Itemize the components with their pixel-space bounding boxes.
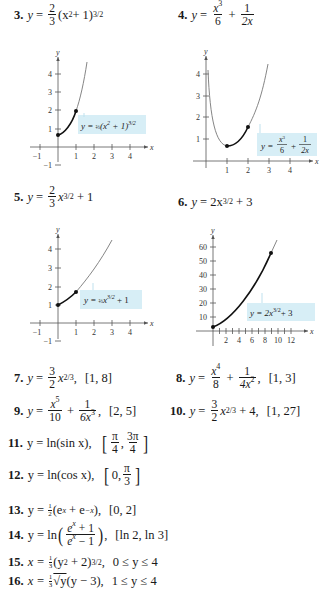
svg-text:60: 60 (199, 243, 207, 252)
svg-text:4: 4 (48, 70, 52, 79)
svg-text:8: 8 (263, 336, 267, 345)
svg-text:x: x (309, 327, 314, 336)
fraction: 3π4 (126, 430, 140, 456)
svg-text:−1: −1 (33, 328, 42, 337)
svg-text:1: 1 (48, 125, 52, 134)
interval: [2, 5] (109, 405, 136, 418)
svg-text:y = ⅔x3/2 + 1: y = ⅔x3/2 + 1 (83, 294, 129, 305)
interval: [0, 2] (109, 504, 136, 517)
fraction: 12 (48, 503, 52, 518)
svg-text:10: 10 (274, 336, 282, 345)
svg-text:3: 3 (196, 92, 200, 101)
problem-number: 9. (14, 405, 23, 418)
svg-text:12: 12 (287, 336, 295, 345)
svg-text:3: 3 (48, 264, 52, 273)
svg-text:2: 2 (48, 106, 52, 115)
svg-text:y: y (203, 47, 208, 56)
svg-text:x: x (314, 157, 319, 166)
svg-text:2: 2 (224, 336, 228, 345)
problem-number: 15. (8, 556, 24, 569)
svg-text:20: 20 (199, 299, 207, 308)
fraction: 32 (211, 398, 219, 424)
svg-text:4: 4 (48, 245, 52, 254)
graph-problem-4: x y 1234 1234 y = x3 6 + 1 2x (193, 47, 319, 175)
svg-text:2x: 2x (301, 146, 309, 155)
svg-text:3: 3 (267, 166, 271, 175)
condition: 1 ≤ y ≤ 4 (112, 575, 157, 588)
svg-text:2: 2 (92, 152, 96, 161)
svg-text:1: 1 (48, 301, 52, 310)
problem-number: 13. (8, 504, 24, 517)
svg-text:2: 2 (246, 166, 250, 175)
svg-text:2: 2 (196, 113, 200, 122)
square-root: √y (53, 575, 66, 588)
problem-number: 11. (8, 437, 23, 450)
svg-text:4: 4 (288, 166, 292, 175)
interval: [1, 27] (267, 405, 300, 418)
svg-text:1: 1 (74, 152, 78, 161)
fraction: x48 (210, 365, 221, 391)
svg-text:y = 2x3/2+ 3: y = 2x3/2+ 3 (249, 307, 293, 318)
svg-text:4: 4 (196, 70, 200, 79)
svg-text:y =: y = (260, 141, 273, 151)
graph-problem-3: x y −112 34 1234 −1 y = ⅔(x2 + 1)3/2 (30, 48, 154, 170)
problem-15: 15. x = 13 (y2 + 2)3/2, 0 ≤ y ≤ 4 (8, 555, 158, 570)
svg-text:1: 1 (196, 135, 200, 144)
svg-text:x: x (149, 319, 154, 328)
problem-11: 11. y = ln(sin x), [ π4, 3π4 ] (8, 430, 151, 456)
problem-10: 10. y = 32 x2/3 + 4, [1, 27] (170, 398, 300, 424)
svg-text:10: 10 (199, 313, 207, 322)
fraction: 13 (49, 555, 53, 570)
fraction: 23 (48, 184, 56, 210)
svg-text:x: x (149, 143, 154, 152)
svg-text:−1: −1 (43, 337, 52, 346)
problem-number: 8. (176, 372, 185, 385)
problem-number: 6. (178, 196, 187, 209)
problem-6: 6. y = 2x3/2 + 3 (178, 196, 253, 209)
problem-number: 7. (14, 372, 23, 385)
problem-14: 14. y = ln ( ex + 1 ex − 1 ), [ln 2, ln … (8, 522, 168, 548)
svg-text:6: 6 (280, 146, 284, 155)
svg-text:4: 4 (128, 152, 132, 161)
problem-number: 10. (170, 405, 186, 418)
svg-text:30: 30 (199, 285, 207, 294)
svg-text:6: 6 (250, 336, 254, 345)
problem-7: 7. y = 32 x2/3, [1, 8] (14, 365, 112, 391)
fraction: x510 (48, 398, 62, 424)
fraction: ex + 1 ex − 1 (66, 522, 95, 548)
svg-text:−1: −1 (33, 152, 42, 161)
fraction: 14x2 (239, 365, 256, 391)
svg-text:3: 3 (110, 328, 114, 337)
svg-text:y: y (55, 225, 60, 234)
fraction: π3 (123, 462, 131, 488)
svg-text:40: 40 (199, 271, 207, 280)
problem-13: 13. y = 12 (ex + e−x ), [0, 2] (8, 503, 136, 518)
svg-text:50: 50 (199, 257, 207, 266)
graph-problem-6: x y 246 81012 102030 405060 y = 2x3/2+ 3 (196, 226, 315, 346)
svg-text:4: 4 (237, 336, 241, 345)
svg-text:1: 1 (225, 166, 229, 175)
svg-text:+: + (291, 141, 296, 151)
svg-text:−1: −1 (43, 161, 52, 170)
svg-text:4: 4 (128, 328, 132, 337)
svg-text:2: 2 (48, 283, 52, 292)
condition: 0 ≤ y ≤ 4 (113, 556, 158, 569)
svg-text:3: 3 (48, 88, 52, 97)
problem-9: 9. y = x510 + 16x3, [2, 5] (14, 398, 136, 424)
problem-number: 16. (8, 575, 24, 588)
svg-text:y: y (210, 226, 215, 235)
svg-text:1: 1 (303, 135, 307, 144)
fraction: 16x3 (79, 398, 96, 424)
problem-number: 5. (14, 191, 23, 204)
graph-problem-5: x y −112 34 1234 −1 y = ⅔x3/2 + 1 (30, 225, 154, 346)
svg-text:y: y (55, 48, 60, 57)
interval: [1, 8] (85, 372, 112, 385)
problem-number: 12. (8, 469, 24, 482)
fraction: 13 (49, 574, 53, 589)
svg-text:1: 1 (74, 328, 78, 337)
problem-5: 5. y = 23 x3/2 + 1 (14, 184, 93, 210)
svg-text:2: 2 (92, 328, 96, 337)
problem-8: 8. y = x48 + 14x2, [1, 3] (176, 365, 296, 391)
svg-text:3: 3 (110, 152, 114, 161)
problem-number: 14. (8, 529, 24, 542)
